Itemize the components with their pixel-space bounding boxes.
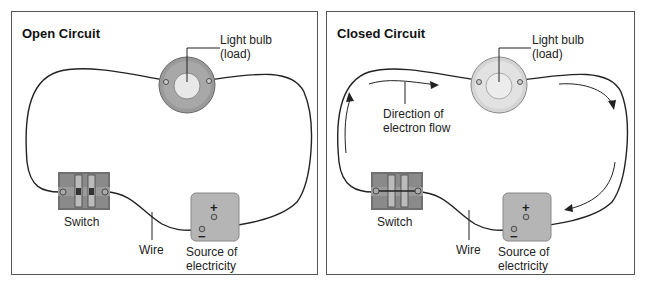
battery-plus: + (210, 201, 218, 215)
closed-circuit-diagram (327, 12, 636, 276)
closed-circuit-panel: Closed Circuit (326, 11, 635, 275)
switch-label: Switch (64, 215, 99, 229)
open-circuit-panel: Open Circuit (11, 11, 318, 275)
switch-icon (371, 172, 423, 210)
wire-bottom (105, 192, 202, 230)
electron-flow-label: Direction of electron flow (383, 107, 450, 135)
battery-minus: − (198, 230, 206, 244)
bulb-label: Light bulb (load) (220, 33, 272, 61)
battery-plus: + (522, 201, 530, 215)
source-label: Source of electricity (498, 245, 549, 273)
battery-minus: − (510, 230, 518, 244)
open-circuit-diagram (12, 12, 319, 276)
source-label: Source of electricity (186, 245, 237, 273)
switch-label: Switch (377, 215, 412, 229)
bulb-label: Light bulb (load) (532, 33, 584, 61)
wire-label: Wire (139, 243, 164, 257)
switch-icon (58, 172, 110, 210)
wire-label: Wire (456, 243, 481, 257)
